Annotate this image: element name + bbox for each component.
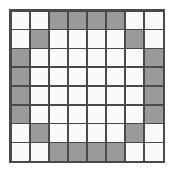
grid-figure (0, 0, 172, 172)
grid-cell-r6-c7 (126, 106, 144, 123)
grid-cell-r3-c6 (107, 49, 125, 66)
grid-cell-r3-c2 (31, 49, 49, 66)
grid-cell-r2-c6 (107, 30, 125, 47)
grid-cell-r1-c2 (31, 12, 49, 29)
grid-cell-r4-c5 (88, 68, 106, 85)
grid-cell-r7-c6 (107, 124, 125, 141)
grid-cell-r5-c6 (107, 87, 125, 104)
grid-cell-r2-c5 (88, 30, 106, 47)
grid-cell-r2-c3 (50, 30, 68, 47)
grid-cell-r5-c4 (69, 87, 87, 104)
grid-cell-r7-c7 (126, 124, 144, 141)
grid-cell-r5-c3 (50, 87, 68, 104)
grid-cell-r1-c5 (88, 12, 106, 29)
grid-cell-r6-c5 (88, 106, 106, 123)
grid-cell-r2-c4 (69, 30, 87, 47)
grid-cell-r3-c4 (69, 49, 87, 66)
grid-cell-r4-c4 (69, 68, 87, 85)
grid-cell-r2-c1 (12, 30, 30, 47)
grid-cell-r8-c3 (50, 143, 68, 160)
grid-cell-r3-c7 (126, 49, 144, 66)
grid-cell-r4-c1 (12, 68, 30, 85)
grid-cell-r6-c3 (50, 106, 68, 123)
grid-cell-r7-c8 (145, 124, 163, 141)
grid-cell-r1-c7 (126, 12, 144, 29)
grid-cell-r4-c7 (126, 68, 144, 85)
grid-cell-r3-c5 (88, 49, 106, 66)
grid-cell-r8-c8 (145, 143, 163, 160)
grid-cell-r8-c1 (12, 143, 30, 160)
grid-cell-r4-c6 (107, 68, 125, 85)
grid-cell-r1-c3 (50, 12, 68, 29)
grid-cell-r7-c1 (12, 124, 30, 141)
grid-cell-r1-c6 (107, 12, 125, 29)
grid-cell-r6-c6 (107, 106, 125, 123)
grid-cell-r8-c4 (69, 143, 87, 160)
grid-cell-r4-c3 (50, 68, 68, 85)
grid-cell-r8-c7 (126, 143, 144, 160)
grid-cell-r1-c4 (69, 12, 87, 29)
grid-cell-r7-c4 (69, 124, 87, 141)
grid-cell-r3-c3 (50, 49, 68, 66)
grid-cell-r2-c7 (126, 30, 144, 47)
grid-cell-r7-c3 (50, 124, 68, 141)
grid-cell-r6-c4 (69, 106, 87, 123)
grid-cell-r7-c2 (31, 124, 49, 141)
grid-cell-r5-c8 (145, 87, 163, 104)
grid-cell-r6-c2 (31, 106, 49, 123)
grid-cell-r1-c1 (12, 12, 30, 29)
grid-cell-r5-c1 (12, 87, 30, 104)
grid-cell-r2-c8 (145, 30, 163, 47)
grid-cell-r2-c2 (31, 30, 49, 47)
grid-cell-r6-c1 (12, 106, 30, 123)
grid-cell-r4-c2 (31, 68, 49, 85)
grid-cell-r4-c8 (145, 68, 163, 85)
grid-cell-r3-c1 (12, 49, 30, 66)
grid-cell-r1-c8 (145, 12, 163, 29)
grid-cell-r6-c8 (145, 106, 163, 123)
grid-cell-r5-c2 (31, 87, 49, 104)
grid-cell-r8-c6 (107, 143, 125, 160)
grid-cell-r7-c5 (88, 124, 106, 141)
grid-cell-r5-c7 (126, 87, 144, 104)
grid-cell-r5-c5 (88, 87, 106, 104)
grid-cell-r3-c8 (145, 49, 163, 66)
grid-cell-r8-c2 (31, 143, 49, 160)
grid-cell-r8-c5 (88, 143, 106, 160)
pattern-grid (9, 9, 165, 163)
